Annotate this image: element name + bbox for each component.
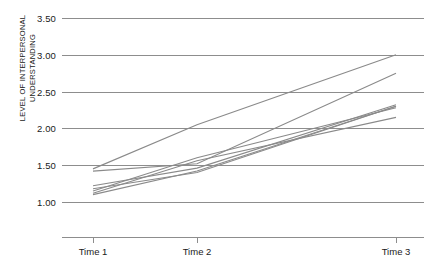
data-lines-group <box>0 0 435 270</box>
line-chart: LEVEL OF INTERPERSONAL UNDERSTANDING 3.5… <box>0 0 435 270</box>
x-axis-line <box>62 237 424 238</box>
x-tick-label-time-1: Time 1 <box>79 246 108 257</box>
x-tick-label-time-3: Time 3 <box>382 246 411 257</box>
series-line <box>93 55 396 169</box>
x-axis-tick <box>93 238 94 243</box>
x-axis-tick <box>197 238 198 243</box>
x-axis-tick <box>396 238 397 243</box>
x-tick-label-time-2: Time 2 <box>183 246 212 257</box>
